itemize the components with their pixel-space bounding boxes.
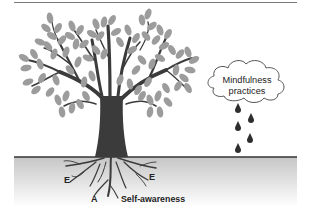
root-label-a: A <box>91 194 98 204</box>
raindrop-icon <box>235 103 241 113</box>
trunk <box>95 96 128 157</box>
raindrop-icon <box>247 133 253 143</box>
root-label-e-left: E <box>64 175 70 185</box>
root-label-e-right: E <box>149 172 155 182</box>
raindrop-icon <box>248 113 254 123</box>
raindrops <box>235 103 254 153</box>
cloud-label-line1: Mindfulness <box>222 75 271 85</box>
raindrop-icon <box>235 143 241 153</box>
mindfulness-cloud: Mindfulness practices <box>208 61 284 103</box>
tree-diagram: Mindfulness practices E E A Self-awarene… <box>0 0 309 218</box>
cloud-label-line2: practices <box>229 86 266 96</box>
raindrop-icon <box>235 121 241 131</box>
root-label-self-awareness: Self-awareness <box>121 194 185 204</box>
